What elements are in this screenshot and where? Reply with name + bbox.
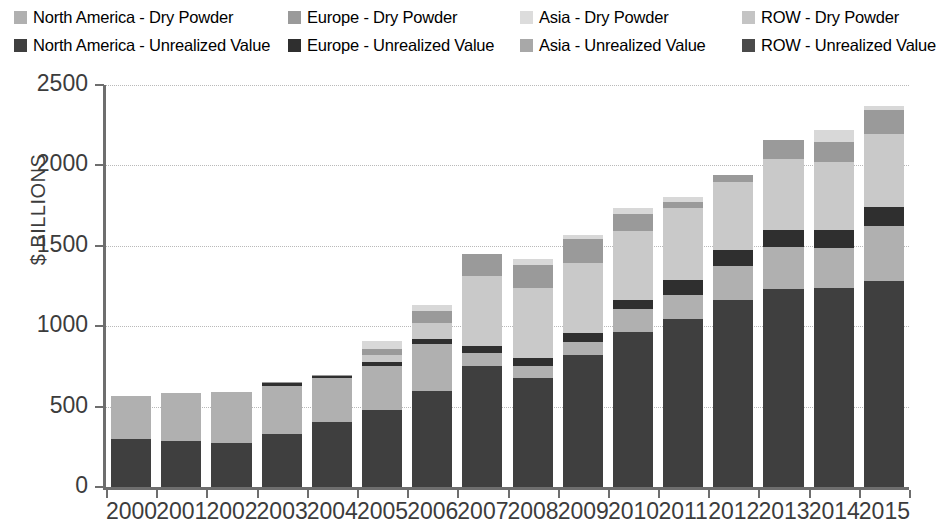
x-tick-label: 2000 — [106, 498, 156, 525]
bar-segment — [312, 422, 352, 487]
bar-segment — [663, 280, 703, 294]
bar-segment — [563, 239, 603, 262]
bar-segment — [763, 230, 803, 247]
bar-2004[interactable] — [312, 85, 352, 487]
bar-segment — [262, 434, 302, 487]
bar-segment — [513, 288, 553, 358]
bar-2014[interactable] — [814, 85, 854, 487]
x-tick-label: 2013 — [758, 498, 808, 525]
x-tick-mark — [156, 490, 158, 498]
x-tick-mark — [457, 490, 459, 498]
x-tick-mark — [758, 490, 760, 498]
bar-segment — [362, 349, 402, 355]
bar-segment — [362, 410, 402, 487]
x-tick-label: 2012 — [708, 498, 758, 525]
bar-segment — [262, 383, 302, 386]
bar-2000[interactable] — [111, 85, 151, 487]
bar-segment — [312, 378, 352, 421]
bar-2011[interactable] — [663, 85, 703, 487]
bar-segment — [312, 376, 352, 378]
bar-segment — [864, 281, 904, 487]
bar-segment — [864, 226, 904, 281]
x-tick-mark — [658, 490, 660, 498]
bar-segment — [763, 140, 803, 159]
bar-segment — [362, 341, 402, 348]
bar-2012[interactable] — [713, 85, 753, 487]
y-tick-label: 500 — [0, 392, 88, 419]
bar-segment — [412, 323, 452, 339]
x-tick-label: 2014 — [809, 498, 859, 525]
bar-2003[interactable] — [262, 85, 302, 487]
x-tick-label: 2002 — [206, 498, 256, 525]
bar-segment — [663, 208, 703, 280]
bar-2008[interactable] — [513, 85, 553, 487]
bar-segment — [713, 300, 753, 487]
bar-segment — [713, 182, 753, 250]
bar-segment — [412, 339, 452, 344]
bar-segment — [312, 375, 352, 376]
x-tick-label: 2001 — [156, 498, 206, 525]
bar-segment — [563, 263, 603, 334]
bar-segment — [763, 159, 803, 230]
x-tick-mark — [106, 490, 108, 498]
bar-segment — [462, 346, 502, 353]
bar-2009[interactable] — [563, 85, 603, 487]
bar-segment — [763, 289, 803, 487]
bar-2001[interactable] — [161, 85, 201, 487]
bar-segment — [161, 393, 201, 441]
bar-segment — [613, 309, 653, 332]
bar-segment — [111, 396, 151, 439]
bar-segment — [462, 366, 502, 487]
bar-segment — [412, 311, 452, 323]
bar-2010[interactable] — [613, 85, 653, 487]
x-tick-mark — [508, 490, 510, 498]
bar-segment — [864, 110, 904, 134]
bar-segment — [513, 265, 553, 288]
x-tick-label: 2004 — [307, 498, 357, 525]
x-tick-mark — [407, 490, 409, 498]
x-tick-mark — [558, 490, 560, 498]
bar-segment — [111, 439, 151, 487]
bar-segment — [713, 250, 753, 266]
bar-2006[interactable] — [412, 85, 452, 487]
bar-segment — [663, 202, 703, 208]
bar-segment — [262, 386, 302, 434]
bar-2015[interactable] — [864, 85, 904, 487]
bar-segment — [613, 300, 653, 310]
bar-2002[interactable] — [211, 85, 251, 487]
bar-2005[interactable] — [362, 85, 402, 487]
x-tick-mark — [859, 490, 861, 498]
bar-segment — [613, 332, 653, 487]
bar-segment — [864, 134, 904, 207]
bar-segment — [814, 288, 854, 487]
x-tick-label: 2005 — [357, 498, 407, 525]
bar-segment — [462, 254, 502, 277]
bar-segment — [262, 382, 302, 383]
x-tick-mark — [307, 490, 309, 498]
bar-segment — [211, 443, 251, 487]
bar-segment — [663, 319, 703, 487]
bar-segment — [563, 333, 603, 342]
y-axis-label: $ BILLIONS — [27, 80, 50, 340]
y-tick-label: 1500 — [0, 231, 88, 258]
bar-2007[interactable] — [462, 85, 502, 487]
x-axis-line — [103, 487, 909, 490]
x-tick-label: 2009 — [558, 498, 608, 525]
y-tick-label: 2500 — [0, 70, 88, 97]
bar-segment — [713, 266, 753, 301]
bar-segment — [814, 162, 854, 230]
y-tick-label: 2000 — [0, 150, 88, 177]
x-tick-mark — [608, 490, 610, 498]
x-tick-label: 2007 — [457, 498, 507, 525]
bar-segment — [161, 441, 201, 487]
bar-segment — [663, 295, 703, 319]
bar-segment — [462, 353, 502, 366]
bar-segment — [362, 362, 402, 366]
bar-segment — [513, 358, 553, 366]
bar-segment — [814, 130, 854, 142]
bar-2013[interactable] — [763, 85, 803, 487]
bar-segment — [814, 142, 854, 162]
y-tick-label: 0 — [0, 472, 88, 499]
